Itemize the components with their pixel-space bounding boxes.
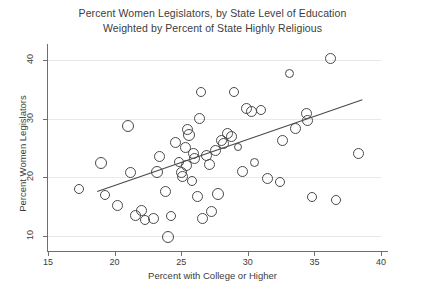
scatter-point: [95, 157, 107, 169]
scatter-point: [325, 53, 336, 64]
scatter-point: [151, 166, 163, 178]
y-axis-title: Percent Women Legislators: [17, 84, 28, 224]
y-tick: [43, 119, 47, 120]
page-title: Percent Women Legislators, by State Leve…: [0, 6, 425, 21]
x-tick: [181, 252, 182, 256]
scatter-point: [277, 135, 288, 146]
scatter-point: [189, 153, 200, 164]
scatter-point: [229, 87, 239, 97]
y-tick: [43, 177, 47, 178]
scatter-point: [204, 159, 215, 170]
scatter-point: [162, 231, 174, 243]
gridline: [48, 119, 381, 120]
chart-figure: Percent Women Legislators, by State Leve…: [0, 0, 425, 293]
scatter-point: [256, 105, 266, 115]
scatter-point: [275, 177, 285, 187]
gridline: [48, 236, 381, 237]
x-axis-line: [47, 251, 388, 252]
scatter-point: [136, 205, 147, 216]
chart-subtitle: Weighted by Percent of State Highly Reli…: [0, 21, 425, 36]
scatter-point: [74, 184, 84, 194]
scatter-point: [237, 166, 248, 177]
scatter-point: [206, 206, 217, 217]
x-tick: [381, 252, 382, 256]
scatter-point: [285, 69, 294, 78]
scatter-point: [307, 192, 317, 202]
x-tick: [115, 252, 116, 256]
x-tick-label: 25: [169, 257, 193, 267]
scatter-point: [212, 188, 224, 200]
x-tick-label: 30: [236, 257, 260, 267]
scatter-point: [154, 151, 165, 162]
x-tick: [248, 252, 249, 256]
x-tick-label: 40: [369, 257, 393, 267]
x-tick: [48, 252, 49, 256]
x-tick-label: 35: [302, 257, 326, 267]
scatter-point: [331, 195, 341, 205]
scatter-point: [192, 191, 203, 202]
scatter-point: [290, 123, 301, 134]
y-tick-label: 10: [25, 225, 35, 245]
scatter-point: [183, 129, 195, 141]
x-tick-label: 20: [103, 257, 127, 267]
scatter-point: [262, 173, 273, 184]
y-tick: [43, 60, 47, 61]
y-tick-label: 30: [25, 108, 35, 128]
scatter-point: [196, 87, 206, 97]
x-axis-title: Percent with College or Higher: [0, 270, 425, 281]
scatter-point: [160, 186, 171, 197]
scatter-point: [166, 211, 176, 221]
scatter-point: [122, 120, 134, 132]
plot-area: [48, 48, 381, 248]
gridline: [48, 177, 381, 178]
x-tick-label: 15: [36, 257, 60, 267]
y-axis-line: [47, 44, 48, 252]
scatter-point: [353, 148, 364, 159]
scatter-point: [100, 190, 110, 200]
y-tick-label: 20: [25, 166, 35, 186]
scatter-point: [234, 143, 242, 151]
x-tick: [314, 252, 315, 256]
y-tick-label: 40: [25, 49, 35, 69]
scatter-point: [302, 115, 313, 126]
scatter-point: [226, 131, 237, 142]
chart-title-block: Percent Women Legislators, by State Leve…: [0, 6, 425, 36]
y-tick: [43, 236, 47, 237]
scatter-point: [250, 158, 259, 167]
scatter-point: [148, 213, 159, 224]
scatter-point: [194, 113, 205, 124]
scatter-point: [187, 176, 197, 186]
scatter-point: [112, 200, 123, 211]
